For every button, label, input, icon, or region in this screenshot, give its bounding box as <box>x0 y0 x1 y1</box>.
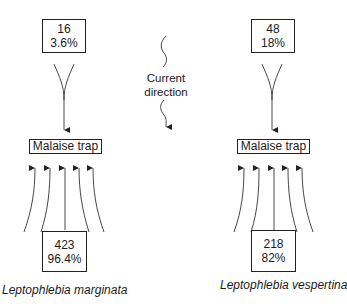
current-direction-label: Current direction <box>126 71 206 99</box>
right-upstream-percent: 18% <box>261 36 285 50</box>
right-upstream-count-box: 48 18% <box>251 19 295 53</box>
left-upward-flow-arrows <box>24 168 104 232</box>
left-downstream-percent: 96.4% <box>47 252 81 266</box>
right-upward-flow-arrows <box>234 168 313 232</box>
current-direction-line1: Current <box>126 71 206 85</box>
left-downward-flow-arrow <box>54 64 74 130</box>
left-downstream-count: 423 <box>54 238 74 252</box>
left-downstream-count-box: 423 96.4% <box>42 231 87 272</box>
right-downstream-count-box: 218 82% <box>251 230 296 272</box>
right-upstream-count: 48 <box>266 22 279 36</box>
current-direction-line2: direction <box>126 85 206 99</box>
left-upstream-percent: 3.6% <box>50 36 77 50</box>
right-species-label: Leptophlebia vespertina <box>220 278 347 292</box>
left-malaise-trap: Malaise trap <box>29 139 102 154</box>
left-species-label: Leptophlebia marginata <box>2 283 127 297</box>
right-downward-flow-arrow <box>262 64 282 130</box>
right-downstream-percent: 82% <box>261 251 285 265</box>
right-malaise-trap: Malaise trap <box>237 139 310 154</box>
left-upstream-count-box: 16 3.6% <box>42 19 86 53</box>
right-downstream-count: 218 <box>263 237 283 251</box>
left-upstream-count: 16 <box>57 22 70 36</box>
